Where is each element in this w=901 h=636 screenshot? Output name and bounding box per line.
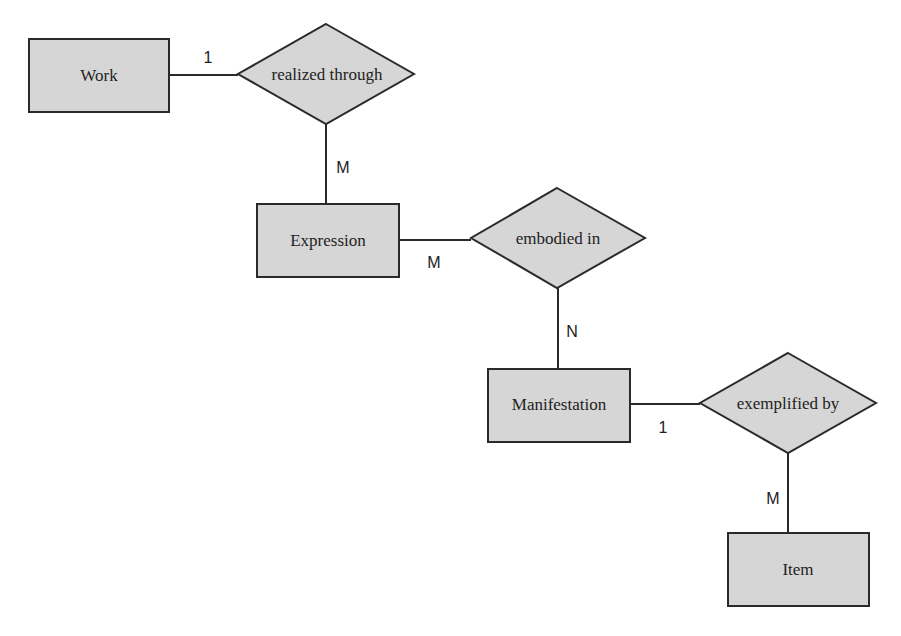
relationship-realized-through: realized through bbox=[238, 24, 414, 124]
cardinality-exemplified-item: M bbox=[766, 490, 779, 507]
cardinality-embodied-manifestation: N bbox=[566, 323, 578, 340]
cardinality-manifestation-exemplified: 1 bbox=[659, 419, 668, 436]
cardinality-work-realized: 1 bbox=[204, 49, 213, 66]
entity-item: Item bbox=[728, 533, 869, 606]
entity-manifestation-label: Manifestation bbox=[512, 395, 607, 414]
cardinality-expression-embodied: M bbox=[427, 254, 440, 271]
entity-work-label: Work bbox=[80, 66, 118, 85]
relationship-embodied-in: embodied in bbox=[471, 188, 645, 288]
connectors bbox=[169, 75, 788, 532]
entity-item-label: Item bbox=[782, 560, 813, 579]
entity-manifestation: Manifestation bbox=[488, 369, 630, 442]
relationship-embodied-in-label: embodied in bbox=[516, 229, 601, 248]
er-diagram: Work Expression Manifestation Item reali… bbox=[0, 0, 901, 636]
relationship-exemplified-by-label: exemplified by bbox=[737, 394, 840, 413]
entity-work: Work bbox=[29, 39, 169, 112]
entity-expression: Expression bbox=[257, 204, 399, 277]
entity-expression-label: Expression bbox=[290, 231, 366, 250]
relationship-realized-through-label: realized through bbox=[272, 65, 383, 84]
relationship-exemplified-by: exemplified by bbox=[700, 353, 876, 453]
cardinality-realized-expression: M bbox=[336, 159, 349, 176]
